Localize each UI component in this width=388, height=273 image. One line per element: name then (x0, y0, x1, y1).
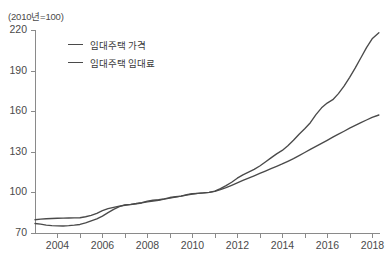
legend-line-swatch-rent (68, 62, 83, 63)
series-line-rent (35, 115, 379, 220)
x-tick-label: 2012 (226, 239, 250, 251)
rental-housing-index-chart: (2010년=100) 7010013016019022020042006200… (0, 0, 388, 273)
y-tick-label: 70 (15, 226, 27, 238)
x-tick-label: 2014 (271, 239, 295, 251)
legend-line-swatch-price (68, 44, 83, 45)
y-tick-label: 220 (9, 23, 27, 35)
legend-item-price: 임대주택 가격 (68, 37, 155, 52)
chart-legend: 임대주택 가격 임대주택 임대료 (68, 37, 155, 73)
legend-item-rent: 임대주택 임대료 (68, 55, 155, 70)
chart-unit-note: (2010년=100) (8, 9, 64, 23)
x-tick-label: 2006 (91, 239, 115, 251)
x-tick-label: 2018 (361, 239, 385, 251)
y-tick-label: 190 (9, 64, 27, 76)
x-tick-label: 2004 (46, 239, 70, 251)
y-tick-label: 100 (9, 185, 27, 197)
y-tick-label: 130 (9, 145, 27, 157)
x-tick-label: 2010 (181, 239, 205, 251)
legend-label-rent: 임대주택 임대료 (90, 56, 155, 70)
y-tick-label: 160 (9, 104, 27, 116)
legend-label-price: 임대주택 가격 (90, 38, 146, 52)
x-tick-label: 2016 (316, 239, 340, 251)
x-tick-label: 2008 (136, 239, 160, 251)
